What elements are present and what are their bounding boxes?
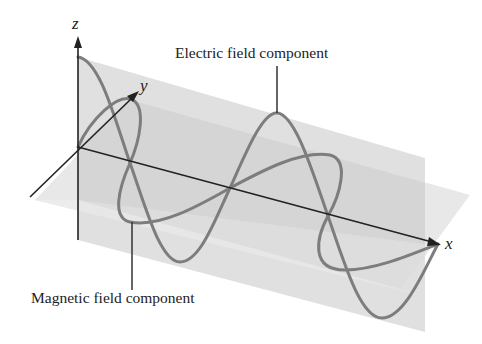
z-axis-arrow-icon <box>74 36 82 48</box>
electric-field-label: Electric field component <box>175 44 328 62</box>
y-axis-label: y <box>140 76 148 96</box>
z-axis-label: z <box>72 14 79 34</box>
magnetic-field-label: Magnetic field component <box>31 289 195 307</box>
x-axis-label: x <box>445 234 453 254</box>
em-wave-diagram: z y x Electric field component Magnetic … <box>0 0 482 344</box>
